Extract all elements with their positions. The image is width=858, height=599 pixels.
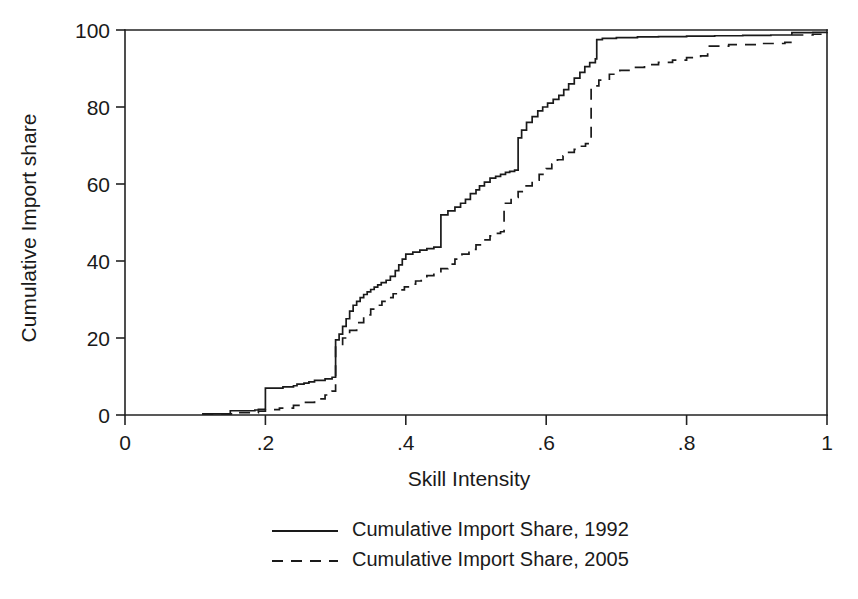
y-tick-label: 80 xyxy=(87,96,110,119)
chart-figure: 020406080100 0.2.4.6.81 Skill Intensity … xyxy=(0,0,858,599)
y-tick-label: 20 xyxy=(87,327,110,350)
chart-background xyxy=(0,0,858,599)
x-tick-label: 1 xyxy=(821,431,833,454)
y-axis-title: Cumulative Import share xyxy=(17,114,40,343)
x-tick-label: .4 xyxy=(397,431,415,454)
cumulative-import-share-chart: 020406080100 0.2.4.6.81 Skill Intensity … xyxy=(0,0,858,599)
x-axis-title: Skill Intensity xyxy=(408,467,531,490)
y-tick-label: 40 xyxy=(87,250,110,273)
x-tick-label: .6 xyxy=(537,431,555,454)
x-tick-label: .2 xyxy=(257,431,275,454)
y-tick-label: 0 xyxy=(98,404,110,427)
legend-label-2005: Cumulative Import Share, 2005 xyxy=(352,548,629,570)
x-tick-label: 0 xyxy=(119,431,131,454)
legend-label-1992: Cumulative Import Share, 1992 xyxy=(352,518,629,540)
y-tick-label: 100 xyxy=(75,19,110,42)
y-tick-label: 60 xyxy=(87,173,110,196)
x-tick-label: .8 xyxy=(678,431,696,454)
